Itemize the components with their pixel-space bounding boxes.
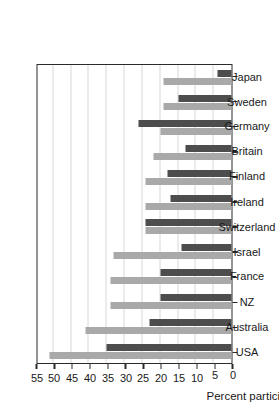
value-axis-tick-label: 30 bbox=[119, 374, 131, 385]
value-axis-tick-label: 25 bbox=[137, 374, 149, 385]
category-axis-label: Germany bbox=[224, 121, 269, 132]
bar bbox=[170, 195, 231, 202]
bar-group bbox=[37, 319, 231, 334]
bar-group bbox=[37, 70, 231, 85]
bar bbox=[113, 252, 231, 259]
tick-mark bbox=[124, 364, 125, 369]
category-tick: Germany bbox=[232, 119, 252, 134]
bar-group bbox=[37, 344, 231, 359]
bar-series-container bbox=[37, 65, 231, 363]
bar-group bbox=[37, 170, 231, 185]
tick-mark bbox=[53, 364, 54, 369]
value-axis-tick-label: 35 bbox=[101, 374, 113, 385]
category-tick: USA bbox=[232, 345, 252, 360]
category-axis-label: Britain bbox=[231, 146, 262, 157]
value-axis-tick-label: 0 bbox=[229, 371, 235, 382]
bar-group bbox=[37, 145, 231, 160]
bar bbox=[160, 128, 231, 135]
category-axis-label: NZ bbox=[239, 297, 254, 308]
bar bbox=[110, 302, 231, 309]
tick-mark bbox=[89, 364, 90, 369]
tick-mark bbox=[196, 364, 197, 369]
tick-mark bbox=[71, 364, 72, 369]
tick-mark bbox=[214, 364, 215, 369]
value-axis-tick-label: 5 bbox=[211, 371, 217, 382]
value-axis-tick-label: 15 bbox=[172, 374, 184, 385]
bar bbox=[153, 153, 231, 160]
value-axis-tick-label: 20 bbox=[155, 374, 167, 385]
value-axis-tick-label: 50 bbox=[48, 374, 60, 385]
bar bbox=[49, 352, 231, 359]
category-tick: NZ bbox=[232, 295, 252, 310]
bar bbox=[149, 319, 231, 326]
tick-mark bbox=[35, 364, 36, 369]
category-tick: Ireland bbox=[232, 195, 252, 210]
category-axis-label: Australia bbox=[225, 322, 268, 333]
category-axis-label: Israel bbox=[233, 247, 260, 258]
bar bbox=[167, 170, 231, 177]
tick-mark bbox=[107, 364, 108, 369]
category-axis: USAAustraliaNZFranceIsraelSwitzerlandIre… bbox=[232, 64, 279, 364]
bar bbox=[185, 145, 231, 152]
bar-group bbox=[37, 195, 231, 210]
value-axis-tick-label: 40 bbox=[83, 374, 95, 385]
category-axis-label: Japan bbox=[232, 71, 262, 82]
bar bbox=[138, 120, 231, 127]
tick-mark bbox=[232, 302, 237, 303]
bar bbox=[163, 103, 231, 110]
category-tick: Britain bbox=[232, 144, 252, 159]
bar bbox=[110, 277, 231, 284]
tick-mark bbox=[231, 364, 232, 369]
tick-mark bbox=[178, 364, 179, 369]
bar bbox=[178, 95, 231, 102]
bar bbox=[145, 203, 231, 210]
bar-group bbox=[37, 244, 231, 259]
bar bbox=[106, 344, 231, 351]
chart-figure: 0510152025303540455055 Percent participa… bbox=[0, 0, 279, 416]
category-axis-label: Switzerland bbox=[218, 222, 275, 233]
bar-group bbox=[37, 95, 231, 110]
category-tick: Switzerland bbox=[232, 220, 252, 235]
bar bbox=[217, 70, 231, 77]
bar-group bbox=[37, 219, 231, 234]
value-axis-tick-label: 55 bbox=[30, 374, 42, 385]
category-tick: Australia bbox=[232, 320, 252, 335]
bar-group bbox=[37, 269, 231, 284]
tick-mark bbox=[160, 364, 161, 369]
category-tick: Sweden bbox=[232, 94, 252, 109]
bar bbox=[160, 269, 231, 276]
bar bbox=[145, 178, 231, 185]
category-axis-label: France bbox=[229, 272, 263, 283]
value-axis: 0510152025303540455055 bbox=[36, 364, 232, 416]
category-axis-label: Sweden bbox=[227, 96, 267, 107]
tick-mark bbox=[142, 364, 143, 369]
chart-rotated-canvas: 0510152025303540455055 Percent participa… bbox=[0, 0, 279, 416]
bar bbox=[85, 327, 231, 334]
category-axis-label: USA bbox=[235, 347, 258, 358]
value-axis-tick-label: 45 bbox=[66, 374, 78, 385]
bar bbox=[160, 294, 231, 301]
category-tick: France bbox=[232, 270, 252, 285]
category-tick: Finland bbox=[232, 169, 252, 184]
plot-area bbox=[36, 64, 232, 364]
value-axis-tick-label: 10 bbox=[190, 374, 202, 385]
bar bbox=[181, 244, 231, 251]
value-axis-title: Percent participating bbox=[206, 390, 266, 402]
bar-group bbox=[37, 294, 231, 309]
bar bbox=[163, 78, 231, 85]
category-axis-label: Ireland bbox=[230, 197, 264, 208]
category-axis-label: Finland bbox=[228, 171, 264, 182]
category-tick: Israel bbox=[232, 245, 252, 260]
category-tick: Japan bbox=[232, 69, 252, 84]
bar-group bbox=[37, 120, 231, 135]
